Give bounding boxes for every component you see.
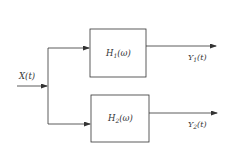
block-h1-label: H1(ω) [105, 48, 131, 59]
block-diagram: X(t) H1(ω) H2(ω) Y1(t) Y2(t) [0, 0, 235, 154]
output-label-y2: Y2(t) [188, 120, 207, 130]
block-h2-label: H2(ω) [107, 113, 133, 124]
output-label-y1: Y1(t) [188, 53, 207, 63]
input-label: X(t) [18, 71, 35, 81]
